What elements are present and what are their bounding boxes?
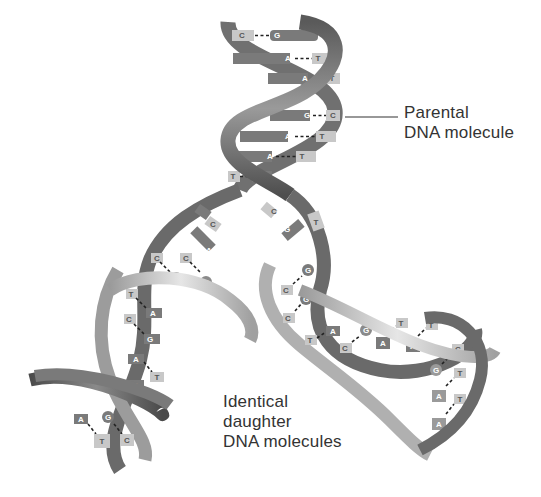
svg-text:T: T [316, 54, 321, 63]
svg-text:A: A [330, 327, 336, 336]
base-pair: C G [232, 30, 318, 41]
svg-text:A: A [206, 246, 212, 255]
base-pair: A T [240, 131, 336, 142]
parental-helix: C G A T A T G [228, 22, 340, 195]
svg-text:G: G [305, 266, 311, 275]
left-new-strand-front [110, 278, 252, 340]
svg-text:G: G [226, 209, 232, 218]
svg-text:C: C [330, 111, 336, 120]
svg-text:G: G [304, 111, 310, 120]
svg-text:A: A [78, 415, 84, 424]
svg-text:T: T [300, 152, 305, 161]
parental-label-line-1: Parental [404, 103, 514, 123]
svg-text:C: C [285, 314, 291, 323]
base-pair: A T [233, 53, 340, 64]
svg-text:C: C [183, 254, 189, 263]
svg-text:A: A [436, 420, 442, 429]
svg-text:T: T [231, 172, 236, 181]
parental-label-line-2: DNA molecule [404, 123, 514, 143]
svg-text:C: C [210, 220, 216, 229]
svg-text:A: A [267, 152, 273, 161]
svg-text:G: G [147, 335, 153, 344]
svg-text:T: T [129, 290, 134, 299]
svg-text:G: G [433, 366, 439, 375]
svg-text:C: C [342, 344, 348, 353]
svg-text:C: C [126, 315, 132, 324]
base-pair: G C [270, 110, 340, 121]
daughter-label-line-1: Identical [223, 392, 342, 412]
svg-text:A: A [150, 309, 156, 318]
svg-text:G: G [274, 31, 280, 40]
svg-text:T: T [100, 437, 105, 446]
svg-text:A: A [285, 132, 291, 141]
svg-text:C: C [283, 286, 289, 295]
svg-text:A: A [285, 54, 291, 63]
svg-text:T: T [155, 373, 160, 382]
svg-text:A: A [380, 339, 386, 348]
parental-dna-label: Parental DNA molecule [404, 103, 514, 143]
right-old-strand-front [420, 317, 482, 450]
svg-text:A: A [133, 355, 139, 364]
svg-text:T: T [314, 218, 319, 227]
svg-text:G: G [284, 225, 290, 234]
daughter-label-line-2: daughter [223, 412, 342, 432]
daughter-label-line-3: DNA molecules [223, 432, 342, 452]
svg-text:T: T [320, 132, 325, 141]
svg-text:C: C [124, 436, 130, 445]
svg-text:A: A [436, 392, 442, 401]
svg-text:C: C [271, 207, 277, 216]
svg-text:T: T [308, 336, 313, 345]
svg-text:T: T [399, 319, 404, 328]
left-daughter-helix: C G C G T A C [30, 253, 252, 460]
svg-text:C: C [239, 31, 245, 40]
fork-unpaired-left: G C A [190, 204, 232, 255]
svg-text:T: T [458, 369, 463, 378]
daughter-dna-label: Identical daughter DNA molecules [223, 392, 342, 452]
svg-text:T: T [458, 395, 463, 404]
base-pair: C G [340, 324, 372, 353]
svg-text:C: C [154, 254, 160, 263]
svg-text:G: G [105, 413, 111, 422]
